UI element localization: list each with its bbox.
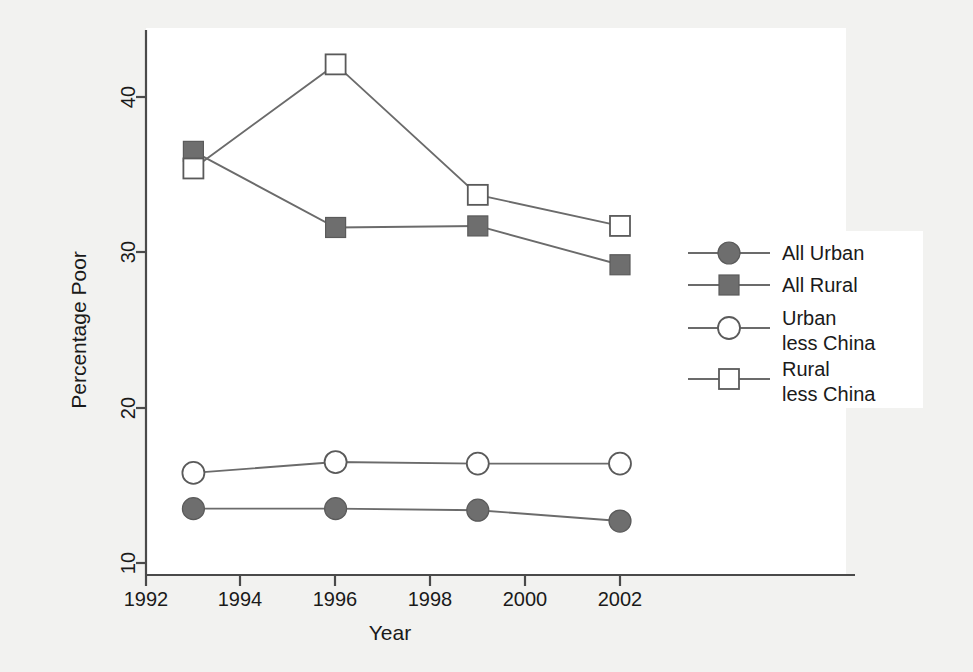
x-tick-label-2000: 2000 [503,588,548,610]
data-point-marker [467,499,489,521]
data-point-marker [467,453,489,475]
data-point-marker [182,498,204,520]
legend-label-rural-less-china-line2: less China [782,383,876,405]
legend-label-urban-less-china-line2: less China [782,332,876,354]
filled-square-marker-icon [719,275,739,295]
series-urban-less-china [182,451,631,484]
chart-legend: All Urban All Rural Urban less China Rur… [678,231,923,408]
x-tick-label-1994: 1994 [218,588,263,610]
y-tick-label-20: 20 [117,397,139,419]
open-circle-marker-icon [718,317,740,339]
x-tick-label-2002: 2002 [598,588,643,610]
data-point-marker [326,54,346,74]
data-point-marker [183,158,203,178]
y-axis-title: Percentage Poor [67,251,90,409]
y-tick-label-10: 10 [117,552,139,574]
series-path [193,509,620,521]
data-point-marker [326,217,346,237]
open-square-marker-icon [719,369,739,389]
data-point-marker [325,498,347,520]
x-axis-title: Year [369,621,411,644]
legend-label-all-rural: All Rural [782,274,858,296]
legend-label-rural-less-china-line1: Rural [782,358,830,380]
series-all-urban [182,498,631,532]
series-path [193,462,620,473]
legend-label-all-urban: All Urban [782,242,864,264]
series-layer [182,54,631,532]
data-point-marker [610,216,630,236]
y-tick-label-40: 40 [117,86,139,108]
legend-entry-urban-less-china[interactable]: Urban less China [688,307,876,354]
legend-entry-all-rural[interactable]: All Rural [688,274,858,296]
y-tick-label-30: 30 [117,241,139,263]
x-tick-label-1992: 1992 [124,588,169,610]
data-point-marker [609,510,631,532]
legend-entry-rural-less-china[interactable]: Rural less China [688,358,876,405]
legend-label-urban-less-china-line1: Urban [782,307,836,329]
data-point-marker [610,255,630,275]
data-point-marker [468,216,488,236]
series-rural-less-china [183,54,630,236]
x-tick-label-1998: 1998 [408,588,453,610]
data-point-marker [182,462,204,484]
data-point-marker [468,185,488,205]
series-path [193,151,620,264]
chart-page: 40 30 20 10 Percentage Poor 1992 1994 19… [0,0,973,672]
x-tick-label-1996: 1996 [313,588,358,610]
y-axis: 40 30 20 10 Percentage Poor [67,30,147,575]
series-all-rural [183,141,630,274]
data-point-marker [609,453,631,475]
series-path [193,64,620,226]
legend-entry-all-urban[interactable]: All Urban [688,242,864,264]
x-axis: 1992 1994 1996 1998 2000 2002 Year [124,575,855,644]
data-point-marker [325,451,347,473]
filled-circle-marker-icon [718,242,740,264]
